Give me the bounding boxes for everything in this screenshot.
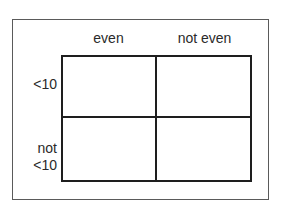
column-header-not-even: not even (157, 30, 252, 46)
row-header-line: <10 (33, 76, 57, 93)
row-header-line: <10 (33, 157, 57, 174)
column-header-even: even (61, 30, 156, 46)
cell-even-less-than-10 (63, 57, 157, 118)
cell-even-not-less-than-10 (63, 118, 157, 180)
row-header-not-less-than-10: not <10 (33, 140, 57, 174)
classification-grid (61, 55, 252, 182)
row-header-line: not (33, 140, 57, 157)
row-header-less-than-10: <10 (33, 76, 57, 93)
cell-not-even-less-than-10 (157, 57, 250, 118)
cell-not-even-not-less-than-10 (157, 118, 250, 180)
